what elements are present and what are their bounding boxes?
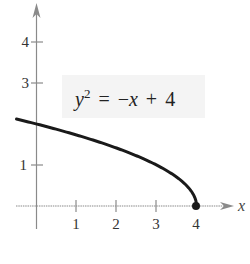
x-tick-label: 2	[112, 216, 120, 232]
y-tick-label: 4	[22, 34, 30, 50]
y-tick-label: 3	[22, 75, 30, 91]
eq-exponent: 2	[84, 86, 91, 101]
chart: x 1 2 3 4 1 3 4 y2=−x+4	[0, 0, 250, 264]
y-axis	[33, 3, 41, 229]
x-tick-label: 3	[152, 216, 160, 232]
endpoint-marker	[192, 202, 200, 210]
y-tick-label: 1	[20, 157, 28, 173]
eq-y: y	[73, 88, 84, 111]
x-tick-labels: 1 2 3 4	[72, 216, 200, 232]
x-tick-label: 1	[72, 216, 80, 232]
x-tick-label: 4	[192, 216, 200, 232]
x-axis: x	[16, 197, 245, 214]
curve-series	[17, 119, 197, 206]
eq-constant: 4	[165, 88, 175, 110]
eq-x: x	[128, 88, 138, 110]
eq-minus: −	[118, 88, 129, 110]
eq-plus: +	[146, 88, 157, 110]
x-axis-label: x	[237, 197, 245, 214]
eq-equals: =	[98, 88, 109, 110]
y-tick-labels: 1 3 4	[20, 34, 30, 173]
